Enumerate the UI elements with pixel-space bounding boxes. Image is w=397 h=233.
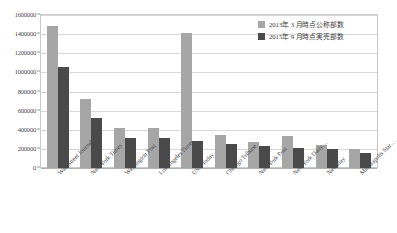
chart-legend: 2013年 3 月時点公称部数 2015年 9 月時点実売部数 [258, 19, 344, 41]
y-axis-tick-label: 400000 [18, 125, 36, 132]
y-axis-tick-label: 600000 [18, 106, 36, 113]
x-axis-label-cell: Newsday [310, 169, 344, 233]
y-axis: 0200000400000600000800000100000012000001… [0, 14, 40, 168]
x-axis-labels: Wall Street JournalNew York TimesWashing… [41, 169, 377, 233]
y-axis-tick-label: 1600000 [15, 11, 36, 18]
x-axis-label-cell: Washington Post [108, 169, 142, 233]
x-axis-label-cell: Los Angeles Times [142, 169, 176, 233]
legend-item: 2013年 3 月時点公称部数 [258, 19, 344, 29]
bar-series-a [47, 26, 58, 168]
bar-series-a [215, 135, 226, 168]
x-axis-label-cell: New York Daily… [276, 169, 310, 233]
bar-group [41, 15, 75, 168]
y-axis-tick-label: 1000000 [15, 68, 36, 75]
x-axis-label-cell: USA Today [175, 169, 209, 233]
legend-label-series-a: 2013年 3 月時点公称部数 [269, 19, 344, 29]
bar-series-a [349, 149, 360, 168]
x-axis-label-cell: Chicago Tribune [209, 169, 243, 233]
x-axis-label-cell: New York Times [75, 169, 109, 233]
y-axis-tick-label: 800000 [18, 87, 36, 94]
legend-item: 2015年 9 月時点実売部数 [258, 31, 344, 41]
bar-group [209, 15, 243, 168]
bar-series-b [58, 67, 69, 168]
bar-group [343, 15, 377, 168]
y-axis-tick-label: 200000 [18, 144, 36, 151]
bar-group [142, 15, 176, 168]
legend-swatch-series-a [258, 21, 265, 28]
x-axis-label-cell: Wall Street Journal [41, 169, 75, 233]
bar-series-a [80, 99, 91, 168]
y-axis-tick-label: 1400000 [15, 30, 36, 37]
y-axis-tick-label: 1200000 [15, 49, 36, 56]
y-axis-tick-label: 0 [33, 164, 36, 171]
x-axis-label-cell: New York Post [243, 169, 277, 233]
legend-swatch-series-b [258, 33, 265, 40]
x-axis-label-cell: Minneapolis Star… [343, 169, 377, 233]
legend-label-series-b: 2015年 9 月時点実売部数 [269, 31, 344, 41]
